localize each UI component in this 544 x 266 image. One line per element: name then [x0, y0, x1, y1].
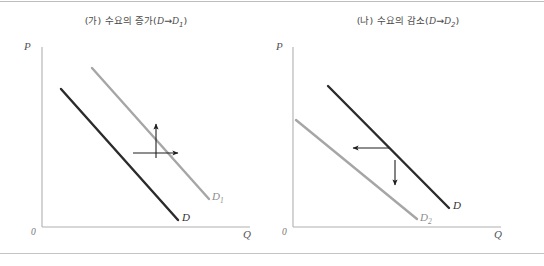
- curve-label-D-base: D: [182, 211, 190, 223]
- curve-D: [61, 89, 178, 220]
- curve-label-D: D: [453, 199, 461, 211]
- curve-label-D2-sub: 2: [428, 217, 432, 226]
- plot-area-demand-decrease: [272, 0, 544, 250]
- origin-label: 0: [282, 227, 287, 237]
- curve-D1: [92, 68, 209, 199]
- curve-label-D1-sub: 1: [220, 196, 224, 205]
- page-rule-bottom: [0, 253, 544, 254]
- figure-sheet: (가) 수요의 증가(D→D1): [0, 0, 544, 266]
- curve-D2: [296, 120, 417, 219]
- plot-area-demand-increase: [0, 0, 272, 250]
- curve-label-D2-base: D: [420, 211, 428, 223]
- panel-demand-increase: (가) 수요의 증가(D→D1): [0, 0, 272, 250]
- y-axis-label: P: [24, 40, 31, 52]
- origin-label: 0: [31, 227, 36, 237]
- curve-label-D: D: [182, 211, 190, 223]
- curve-label-D1: D1: [212, 190, 224, 205]
- curve-label-D2: D2: [420, 211, 432, 226]
- y-axis-label: P: [276, 40, 283, 52]
- x-axis-label: Q: [243, 228, 251, 240]
- curve-label-D-base: D: [453, 199, 461, 211]
- curve-D: [328, 86, 449, 208]
- curve-label-D1-base: D: [212, 190, 220, 202]
- panel-demand-decrease: (나) 수요의 감소(D→D2): [272, 0, 544, 250]
- x-axis-label: Q: [494, 228, 502, 240]
